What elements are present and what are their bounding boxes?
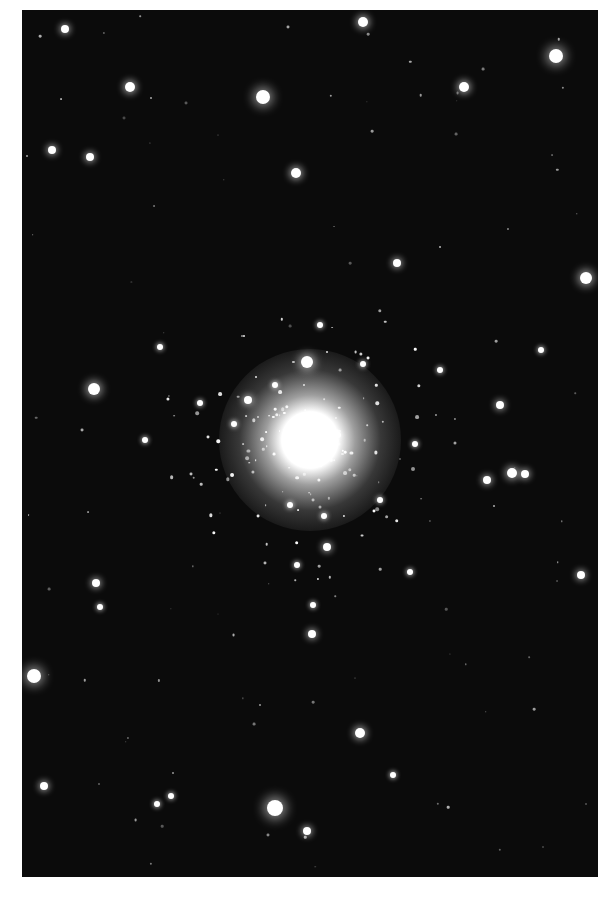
- star: [445, 608, 448, 611]
- star: [295, 541, 299, 545]
- star: [317, 578, 319, 580]
- star: [379, 568, 382, 571]
- star: [334, 596, 335, 597]
- star: [26, 156, 28, 158]
- star: [549, 49, 563, 63]
- star: [103, 32, 105, 34]
- star: [435, 413, 437, 415]
- star: [363, 397, 365, 399]
- star: [142, 437, 148, 443]
- star: [131, 281, 132, 282]
- star: [311, 430, 313, 432]
- star: [61, 25, 69, 33]
- star: [161, 825, 164, 828]
- star: [420, 94, 423, 97]
- star: [439, 246, 441, 248]
- star: [140, 15, 142, 17]
- star: [166, 397, 169, 400]
- star: [557, 562, 559, 564]
- star: [125, 741, 127, 743]
- star: [242, 698, 243, 699]
- star: [92, 579, 100, 587]
- star: [48, 587, 51, 590]
- star: [149, 142, 150, 143]
- star: [429, 519, 431, 521]
- star: [576, 213, 577, 214]
- star: [232, 634, 235, 637]
- star: [482, 68, 485, 71]
- star: [459, 82, 469, 92]
- star: [259, 704, 261, 706]
- star: [333, 226, 335, 228]
- star: [257, 416, 259, 418]
- star: [192, 566, 193, 567]
- star: [244, 396, 252, 404]
- star: [150, 97, 152, 99]
- star: [320, 465, 322, 467]
- star: [437, 367, 443, 373]
- star: [412, 441, 418, 447]
- star: [282, 491, 284, 493]
- star: [415, 415, 419, 419]
- star: [283, 428, 287, 432]
- star: [454, 418, 456, 420]
- star: [375, 507, 379, 511]
- star: [305, 435, 307, 437]
- star: [307, 447, 309, 449]
- star: [339, 430, 342, 433]
- star: [298, 441, 301, 444]
- star: [378, 309, 381, 312]
- star: [268, 415, 270, 417]
- star: [301, 356, 313, 368]
- star: [556, 169, 558, 171]
- star: [39, 35, 42, 38]
- star: [493, 505, 495, 507]
- star: [385, 515, 389, 519]
- star: [289, 453, 292, 456]
- star: [246, 416, 248, 418]
- star: [60, 98, 62, 100]
- star: [83, 679, 85, 681]
- star: [242, 443, 244, 445]
- star: [173, 415, 175, 417]
- star: [326, 351, 328, 353]
- star: [88, 383, 100, 395]
- star: [414, 348, 416, 350]
- star: [255, 459, 257, 461]
- star: [217, 135, 218, 136]
- star: [172, 772, 174, 774]
- star: [301, 431, 305, 435]
- star: [97, 604, 103, 610]
- star: [313, 437, 317, 441]
- star: [231, 421, 237, 427]
- star: [507, 228, 509, 230]
- star: [48, 674, 50, 676]
- star: [318, 565, 321, 568]
- star: [98, 783, 100, 785]
- star: [577, 571, 585, 579]
- star: [265, 543, 268, 546]
- star: [291, 168, 301, 178]
- star: [483, 476, 491, 484]
- star: [207, 435, 210, 438]
- star: [27, 669, 41, 683]
- star: [395, 519, 399, 523]
- star: [309, 439, 311, 441]
- star: [35, 416, 38, 419]
- star: [354, 351, 357, 354]
- star: [561, 520, 562, 521]
- star: [454, 133, 457, 136]
- star: [86, 153, 94, 161]
- star: [384, 320, 387, 323]
- star: [311, 499, 314, 502]
- star: [272, 382, 278, 388]
- star: [372, 510, 375, 513]
- star: [163, 332, 164, 333]
- star: [308, 630, 316, 638]
- star: [168, 793, 174, 799]
- star: [278, 390, 282, 394]
- star: [417, 384, 420, 387]
- star: [150, 863, 152, 865]
- star: [390, 772, 396, 778]
- star: [338, 369, 341, 372]
